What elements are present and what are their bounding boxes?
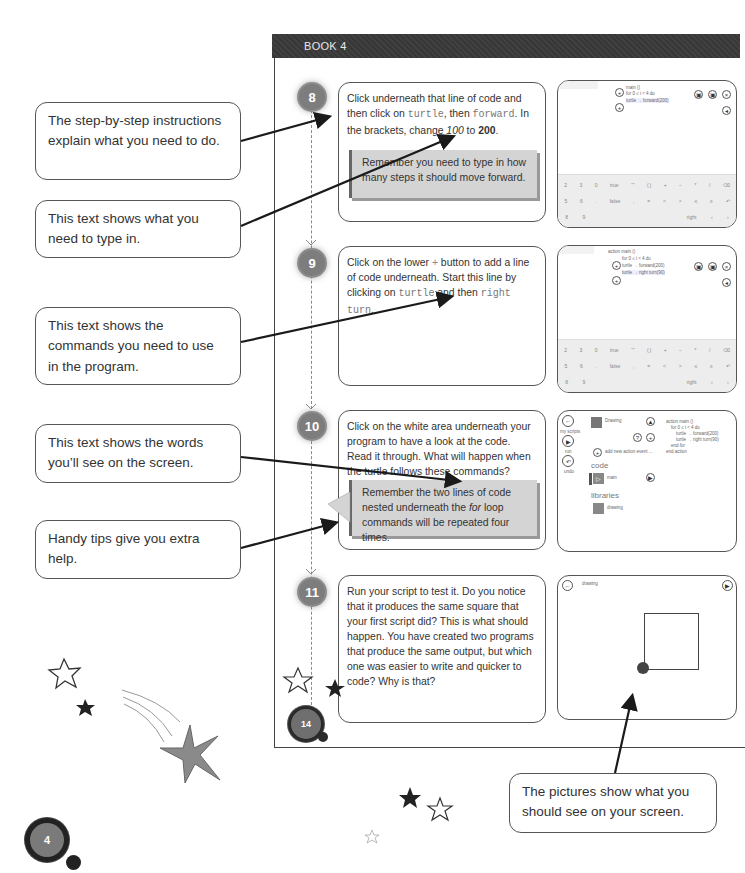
callout-type-in: This text shows what you need to type in… [35, 200, 241, 258]
back-arrow-icon: ← [562, 580, 573, 591]
step-11-screenshot: ← drawing ▶ [557, 575, 737, 720]
key: / [709, 182, 710, 188]
add-event-label: add new action event ... [605, 449, 653, 454]
key: , [633, 363, 634, 369]
code-line: turtle → forward(200) [622, 263, 665, 268]
shooting-star-icon [160, 725, 220, 783]
code-line: turtle → right turn(90) [676, 437, 719, 442]
callout-text: This text shows the words you’ll see on … [48, 435, 203, 470]
key: + [664, 182, 667, 188]
code-word-turtle: turtle [408, 109, 444, 120]
key: ≥ [710, 198, 713, 204]
star-small-icon [365, 830, 379, 843]
page-number-badge-inner: 14 [291, 709, 321, 739]
code-line: action main () [608, 249, 635, 254]
key: 3 [579, 347, 582, 353]
step-number: 9 [308, 256, 315, 271]
turtle-icon [637, 662, 649, 674]
book-header-bar: BOOK 4 [272, 34, 740, 58]
key: 0 [595, 347, 598, 353]
key: 3 [579, 182, 582, 188]
key: − [679, 347, 682, 353]
canvas-label: drawing [582, 581, 598, 586]
key: ( ) [647, 182, 651, 188]
step-number: 11 [305, 585, 319, 600]
key: 6 [580, 198, 583, 204]
star-trail [122, 690, 180, 722]
key: < [663, 198, 666, 204]
callout-text: The step-by-step instructions explain wh… [48, 113, 221, 148]
code-line: end action [666, 449, 687, 454]
key: 8 [565, 214, 568, 220]
copy-icon: ▣ [694, 90, 703, 99]
step-number: 10 [305, 419, 319, 434]
step-9-screenshot: action main () + + for 0 ≤ i < 4 do turt… [557, 245, 737, 393]
key: 5 [564, 363, 567, 369]
code-word-turtle: turtle [398, 288, 434, 299]
old-value: 100 [446, 125, 463, 136]
code-line: end for [671, 443, 685, 448]
key: ( ) [647, 347, 651, 353]
backspace-key: ⌫ [723, 182, 730, 188]
undo-icon: ↶ [562, 455, 574, 467]
backspace-key: ⌫ [723, 347, 730, 353]
callout-commands: This text shows the commands you need to… [35, 307, 241, 385]
key: true [610, 182, 619, 188]
key: 9 [583, 379, 586, 385]
key: false [610, 198, 621, 204]
key: 9 [583, 214, 586, 220]
key: − [679, 182, 682, 188]
text: to [464, 125, 478, 136]
run-icon: ▶ [646, 473, 655, 482]
step-badge-9: 9 [299, 250, 325, 276]
upload-icon: ▲ [646, 417, 655, 426]
step-badge-11: 11 [299, 579, 325, 605]
paste-icon: ▣ [708, 90, 717, 99]
on-screen-keyboard: 230true“”( )+−*/⌫ 56.false,=<>≤≥↶ 89righ… [558, 174, 736, 227]
text: Click on the lower [347, 257, 432, 268]
key: > [679, 363, 682, 369]
key: * [694, 347, 696, 353]
step-9-instructions: Click on the lower + button to add a lin… [338, 246, 546, 386]
tip-pointer [326, 490, 352, 530]
right-key: › [727, 379, 729, 385]
page-number: 4 [44, 834, 50, 846]
callout-pictures: The pictures show what you should see on… [509, 773, 717, 833]
key: false [610, 363, 621, 369]
code-line: main () [626, 85, 640, 90]
step-8-screenshot: + + main () for 0 ≤ i < 4 do turtle → fo… [557, 80, 737, 228]
callout-text: The pictures show what you should see on… [522, 784, 689, 819]
text: , then [444, 108, 473, 119]
code-line-selected: turtle → right turn(90) [622, 270, 665, 275]
code-line: turtle → forward(200) [676, 431, 719, 436]
code-tile: ▷ [593, 473, 604, 484]
callout-screen-words: This text shows the words you’ll see on … [35, 424, 241, 483]
copy-icon: ▣ [694, 262, 703, 271]
step-8-tip: Remember you need to type in how many st… [349, 150, 537, 198]
script-title: Drawing [605, 418, 622, 423]
side-button-label: undo [564, 469, 574, 474]
key: ≤ [694, 198, 697, 204]
key: “” [631, 182, 634, 188]
right-key: › [727, 214, 729, 220]
callout-text: This text shows the commands you need to… [48, 318, 214, 374]
play-icon: ▶ [562, 435, 574, 447]
key: “” [631, 347, 634, 353]
paste-icon: ▣ [708, 262, 717, 271]
page-number: 14 [301, 719, 311, 729]
side-button-label: run [565, 449, 572, 454]
header-strip [558, 246, 594, 254]
text: and then [434, 287, 480, 298]
section-heading-libraries: libraries [591, 491, 619, 500]
code-word-forward: forward [473, 109, 515, 120]
undo-key: ↶ [726, 363, 730, 369]
help-icon: ? [633, 433, 642, 442]
callout-instructions: The step-by-step instructions explain wh… [35, 102, 241, 180]
key: 8 [565, 379, 568, 385]
add-event-icon: + [593, 448, 602, 457]
step-10-screenshot: ← my scripts ▶ run ↶ undo Drawing ▲ ? + … [557, 410, 737, 552]
speaker-icon: ◂ [722, 278, 731, 287]
key: right [687, 379, 697, 385]
callout-tips: Handy tips give you extra help. [35, 520, 241, 579]
key: 6 [580, 363, 583, 369]
